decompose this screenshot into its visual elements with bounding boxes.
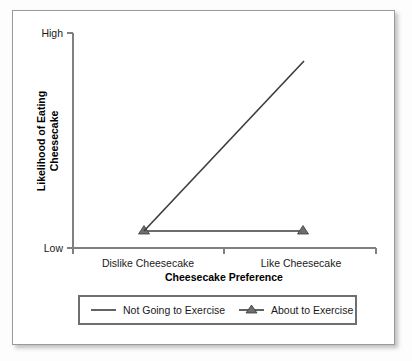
- x-axis-title: Cheesecake Preference: [165, 271, 283, 283]
- chart-figure-card: High Low Likelihood of Eating Cheesecake…: [12, 10, 395, 345]
- series-not-going-to-exercise-line: [144, 61, 304, 231]
- y-axis-label-low: Low: [44, 242, 64, 254]
- y-axis-label-high: High: [41, 27, 63, 39]
- line-chart: High Low Likelihood of Eating Cheesecake…: [13, 11, 394, 344]
- series-about-to-exercise-marker-1: [298, 226, 309, 235]
- chart-legend: Not Going to Exercise About to Exercise: [79, 296, 356, 324]
- y-axis-title-line1: Likelihood of Eating: [35, 91, 47, 191]
- x-axis-category-label-1: Like Cheesecake: [261, 257, 342, 269]
- legend-label-not-going-to-exercise: Not Going to Exercise: [123, 304, 225, 316]
- legend-label-about-to-exercise: About to Exercise: [271, 304, 353, 316]
- y-axis-title: Likelihood of Eating Cheesecake: [35, 91, 60, 191]
- y-axis-title-line2: Cheesecake: [48, 110, 60, 171]
- series-about-to-exercise: [139, 226, 309, 235]
- series-not-going-to-exercise: [144, 61, 304, 231]
- x-axis-category-label-0: Dislike Cheesecake: [102, 257, 194, 269]
